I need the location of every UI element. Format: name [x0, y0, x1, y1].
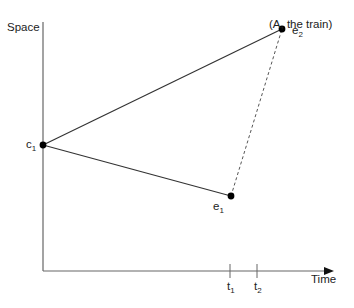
space-time-diagram: Space Time (A, the train) c1 e1 e2 t1 t2 [0, 0, 354, 308]
label-e1: e1 [213, 200, 224, 215]
edge-c1-e2 [43, 29, 282, 145]
point-e1 [228, 193, 235, 200]
label-t1: t1 [227, 280, 235, 295]
label-t2: t2 [254, 280, 262, 295]
y-axis-label: Space [7, 21, 40, 33]
edge-e1-e2-dashed [231, 29, 282, 196]
x-axis-label: Time [311, 273, 336, 285]
label-c1: c1 [26, 138, 37, 153]
edge-c1-e1 [43, 145, 231, 196]
point-c1 [40, 142, 47, 149]
diagram-title: (A, the train) [269, 18, 332, 30]
